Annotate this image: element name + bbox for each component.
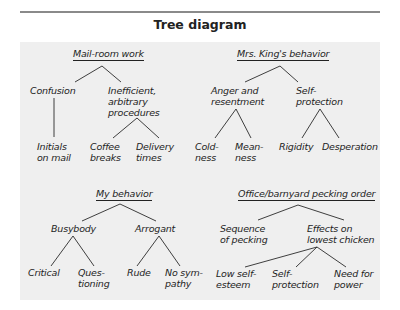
tree3-root: My behavior <box>96 188 152 201</box>
tree3-leaf-no-sympathy: No sym- pathy <box>165 267 203 289</box>
tree4-leaf-low-self-esteem: Low self- esteem <box>216 268 256 290</box>
tree3-leaf-rude: Rude <box>127 267 151 278</box>
tree4-leaf-need-for-power: Need for power <box>334 268 373 290</box>
tree1-leaf-initials: Initials on mail <box>37 141 71 163</box>
tree4-node-sequence: Sequence of pecking <box>220 223 267 245</box>
tree3-leaf-critical: Critical <box>28 267 60 278</box>
tree4-leaf-self-protection: Self- protection <box>272 268 319 290</box>
tree2-node-anger: Anger and resentment <box>211 85 264 107</box>
tree1-root: Mail-room work <box>73 48 144 61</box>
tree1-node-inefficient: Inefficient, arbitrary procedures <box>108 85 160 118</box>
tree2-node-self-protection: Self- protection <box>296 85 343 107</box>
tree3-leaf-questioning: Ques- tioning <box>78 267 110 289</box>
tree3-node-arrogant: Arrogant <box>135 223 175 234</box>
tree4-root: Office/barnyard pecking order <box>238 188 375 201</box>
tree3-node-busybody: Busybody <box>51 223 96 234</box>
tree1-leaf-delivery: Delivery times <box>136 141 174 163</box>
tree4-node-effects: Effects on lowest chicken <box>307 223 374 245</box>
tree2-leaf-coldness: Cold- ness <box>195 141 219 163</box>
tree2-leaf-rigidity: Rigidity <box>279 141 313 152</box>
tree2-leaf-desperation: Desperation <box>322 141 378 152</box>
tree2-root: Mrs. King's behavior <box>237 48 329 61</box>
tree2-leaf-meanness: Mean- ness <box>235 141 263 163</box>
tree1-leaf-coffee: Coffee breaks <box>90 141 121 163</box>
tree1-node-confusion: Confusion <box>30 85 75 96</box>
